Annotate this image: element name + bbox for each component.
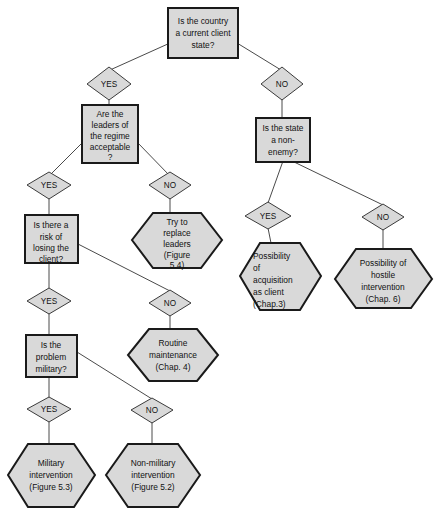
- decision-label: YES: [41, 405, 58, 414]
- outcome-label-line-1: Possibility of: [360, 258, 407, 268]
- outcome-label-line-3: (Chap. 4): [156, 362, 191, 372]
- decision-root-yes[interactable]: YES: [87, 67, 131, 100]
- connector-root-to-yes: [110, 43, 170, 70]
- outcome-label-line-4: as client: [253, 287, 284, 297]
- decision-label: NO: [276, 80, 288, 89]
- node-label-line-5: ?: [108, 152, 113, 162]
- node-is-problem-military[interactable]: Is the problem military?: [26, 335, 77, 377]
- node-label-line-2: problem: [36, 352, 66, 362]
- node-label-line-2: a current client: [176, 28, 232, 38]
- decision-military-no[interactable]: NO: [131, 398, 173, 423]
- decision-leaders-no[interactable]: NO: [149, 172, 191, 199]
- flowchart-svg: Is the country a current client state? Y…: [0, 0, 436, 519]
- node-label-line-3: state?: [192, 40, 215, 50]
- outcome-label-line-3: leaders: [163, 239, 190, 249]
- node-label-line-3: losing the: [33, 243, 69, 253]
- outcome-label-line-3: (Figure 5.3): [29, 482, 72, 492]
- connector-root-to-no: [237, 43, 281, 70]
- decision-risk-no[interactable]: NO: [149, 290, 191, 316]
- outcome-label-line-3: acquisition: [253, 275, 293, 285]
- node-are-leaders-acceptable[interactable]: Are the leaders of the regime acceptable…: [82, 105, 138, 163]
- node-label-line-1: Are the: [96, 109, 123, 119]
- node-is-country-current-client-state[interactable]: Is the country a current client state?: [168, 8, 238, 58]
- decision-label: YES: [41, 181, 58, 190]
- outcome-military-intervention[interactable]: Military intervention (Figure 5.3): [8, 444, 95, 507]
- outcome-possibility-acquisition-as-client[interactable]: Possibility of acquisition as client (Ch…: [240, 243, 321, 310]
- outcome-label-line-5: (Chap.3): [253, 299, 286, 309]
- outcome-label-line-1: Non-military: [131, 458, 176, 468]
- node-label-line-1: Is there a: [34, 220, 69, 230]
- outcome-label-line-1: Try to: [166, 217, 187, 227]
- outcome-label-line-2: hostile: [371, 270, 396, 280]
- node-label-line-1: Is the state: [263, 123, 304, 133]
- outcome-label-line-4: (Figure: [164, 250, 191, 260]
- node-label-line-4: client?: [39, 254, 64, 264]
- decision-label: NO: [146, 406, 158, 415]
- outcome-label-line-2: replace: [163, 228, 191, 238]
- node-risk-of-losing-client[interactable]: Is there a risk of losing the client?: [25, 215, 78, 264]
- outcome-label-line-3: (Figure 5.2): [131, 482, 174, 492]
- outcome-label-line-2: intervention: [29, 470, 73, 480]
- outcome-non-military-intervention[interactable]: Non-military intervention (Figure 5.2): [106, 444, 200, 507]
- decision-label: NO: [164, 299, 176, 308]
- connector-leaders-to-no: [137, 142, 170, 176]
- connector-nonenemy-yes-to-acquisition: [268, 228, 271, 243]
- decision-leaders-yes[interactable]: YES: [27, 172, 71, 199]
- node-label-line-1: Is the country: [178, 16, 229, 26]
- node-label-line-4: acceptable: [90, 142, 131, 152]
- decision-military-yes[interactable]: YES: [27, 397, 71, 422]
- outcome-label-line-2: intervention: [131, 470, 175, 480]
- outcome-routine-maintenance[interactable]: Routine maintenance (Chap. 4): [128, 329, 218, 381]
- outcome-label-line-2: maintenance: [149, 350, 197, 360]
- node-label-line-2: leaders of: [92, 120, 129, 130]
- flowchart-canvas: Is the country a current client state? Y…: [0, 0, 436, 519]
- node-label-line-3: the regime: [90, 131, 130, 141]
- outcome-try-replace-leaders[interactable]: Try to replace leaders (Figure 5.4): [132, 213, 222, 270]
- outcome-label-line-5: 5.4): [170, 260, 185, 270]
- outcome-label-line-1: Possibility: [253, 251, 291, 261]
- outcome-label-line-4: (Chap. 6): [366, 294, 401, 304]
- decision-label: NO: [377, 213, 389, 222]
- connector-nonenemy-to-yes: [268, 161, 283, 203]
- node-label-line-2: risk of: [40, 232, 63, 242]
- outcome-possibility-hostile-intervention[interactable]: Possibility of hostile intervention (Cha…: [335, 249, 432, 308]
- outcome-label-line-3: intervention: [361, 282, 405, 292]
- connector-leaders-to-yes: [49, 142, 83, 176]
- decision-nonenemy-no[interactable]: NO: [362, 204, 404, 230]
- node-label-line-3: military?: [35, 364, 67, 374]
- decision-root-no[interactable]: NO: [261, 67, 303, 100]
- connector-nonenemy-to-no: [292, 161, 383, 205]
- decision-label: YES: [260, 212, 277, 221]
- node-label-line-3: enemy?: [268, 147, 298, 157]
- node-is-state-non-enemy[interactable]: Is the state a non- enemy?: [256, 118, 310, 162]
- node-label-line-2: a non-: [271, 135, 295, 145]
- decision-risk-yes[interactable]: YES: [27, 288, 71, 314]
- outcome-label-line-2: of: [253, 263, 261, 273]
- outcome-label-line-1: Military: [38, 458, 65, 468]
- decision-label: NO: [164, 181, 176, 190]
- decision-label: YES: [41, 297, 58, 306]
- outcome-label-line-1: Routine: [159, 338, 188, 348]
- node-label-line-1: Is the: [41, 340, 62, 350]
- decision-label: YES: [101, 80, 118, 89]
- decision-nonenemy-yes[interactable]: YES: [245, 202, 291, 229]
